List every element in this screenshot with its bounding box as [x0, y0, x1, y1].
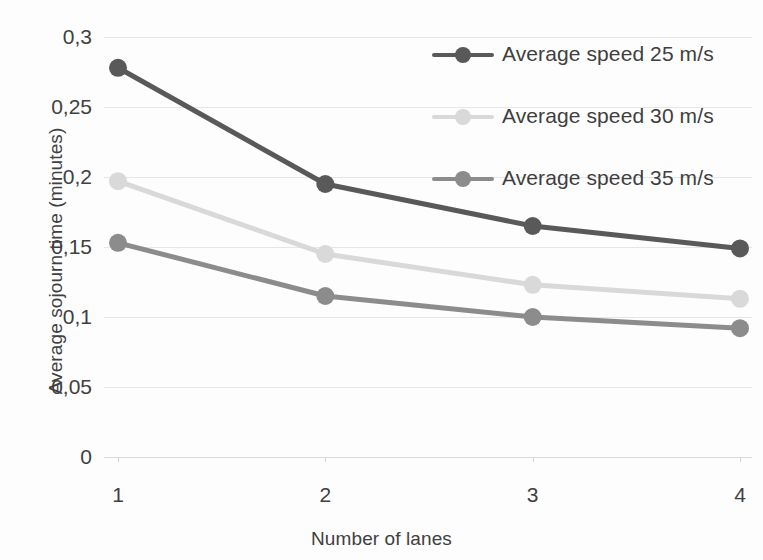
- legend-label: Average speed 35 m/s: [502, 166, 714, 190]
- line-chart: Average sojourn time (minutes) 0,30,250,…: [0, 0, 763, 560]
- legend-marker-icon: [432, 170, 494, 186]
- y-axis-tick-label: 0,15: [51, 235, 104, 259]
- legend-dot: [455, 171, 471, 187]
- data-point: [731, 319, 749, 337]
- y-axis-tick-label: 0: [80, 445, 104, 469]
- legend-item[interactable]: Average speed 35 m/s: [432, 166, 714, 190]
- legend-dot: [455, 109, 471, 125]
- x-axis-tick-label: 2: [319, 483, 331, 507]
- legend-marker-icon: [432, 108, 494, 124]
- x-axis-tick-label: 1: [112, 483, 124, 507]
- legend-item[interactable]: Average speed 30 m/s: [432, 104, 714, 128]
- data-point: [731, 290, 749, 308]
- data-point: [109, 172, 127, 190]
- legend-item[interactable]: Average speed 25 m/s: [432, 42, 714, 66]
- x-axis-tick-label: 3: [527, 483, 539, 507]
- legend-label: Average speed 25 m/s: [502, 42, 714, 66]
- series-average-speed-35-m-s: [109, 234, 749, 337]
- data-point: [316, 245, 334, 263]
- y-axis-title: Average sojourn time (minutes): [45, 111, 67, 411]
- y-axis-tick-label: 0,2: [63, 165, 104, 189]
- data-point: [524, 308, 542, 326]
- data-point: [109, 234, 127, 252]
- data-point: [524, 217, 542, 235]
- x-axis-tick-label: 4: [734, 483, 746, 507]
- data-point: [524, 276, 542, 294]
- y-axis-tick-label: 0,3: [63, 25, 104, 49]
- legend-dot: [455, 47, 471, 63]
- y-axis-tick-label: 0,05: [51, 375, 104, 399]
- y-axis-tick-label: 0,1: [63, 305, 104, 329]
- x-axis-title: Number of lanes: [0, 528, 763, 550]
- series-line: [118, 243, 740, 328]
- legend-marker-icon: [432, 46, 494, 62]
- data-point: [109, 59, 127, 77]
- y-axis-tick-label: 0,25: [51, 95, 104, 119]
- data-point: [316, 287, 334, 305]
- legend: Average speed 25 m/sAverage speed 30 m/s…: [432, 42, 714, 190]
- data-point: [731, 239, 749, 257]
- legend-label: Average speed 30 m/s: [502, 104, 714, 128]
- data-point: [316, 175, 334, 193]
